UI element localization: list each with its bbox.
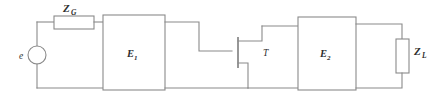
wire-e1-to-transistor-gate xyxy=(165,22,232,51)
label-network-two: E xyxy=(319,48,327,59)
label-network-one-subscript: 1 xyxy=(134,54,138,62)
generator-impedance-symbol xyxy=(54,16,94,29)
load-impedance-symbol xyxy=(396,39,409,73)
wire-e2-to-load-top xyxy=(356,24,402,39)
wire-transistor-drain xyxy=(238,26,262,41)
label-load-impedance: Z xyxy=(413,45,421,57)
circuit-schematic-canvas: e Z G E 1 T E 2 Z L xyxy=(0,0,434,103)
label-source: e xyxy=(19,51,23,61)
label-network-one: E xyxy=(126,48,134,59)
circuit-diagram: e Z G E 1 T E 2 Z L xyxy=(0,0,434,103)
label-generator-impedance-subscript: G xyxy=(71,8,77,17)
wire-load-to-bottom-rail xyxy=(356,73,402,88)
wire-transistor-source xyxy=(238,63,248,88)
label-transistor: T xyxy=(263,48,269,58)
label-generator-impedance: Z xyxy=(62,2,70,14)
label-load-impedance-subscript: L xyxy=(421,51,427,60)
voltage-source-symbol xyxy=(28,46,46,64)
label-network-two-subscript: 2 xyxy=(326,54,331,62)
